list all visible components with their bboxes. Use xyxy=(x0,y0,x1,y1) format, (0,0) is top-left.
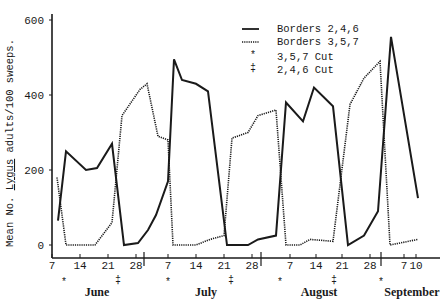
series-borders-246-line xyxy=(58,37,418,245)
legend-label-borders-357: Borders 3,5,7 xyxy=(277,36,359,48)
y-tick-label: 400 xyxy=(24,90,44,102)
y-label-genus: Lygus xyxy=(4,159,16,191)
cut-246-marker-icon: ‡ xyxy=(115,275,121,286)
x-tick-label: 21 xyxy=(101,260,115,272)
x-tick-label: 14 xyxy=(73,260,87,272)
x-ticks: 714212871421287142128710 xyxy=(49,254,423,272)
cut-357-marker-icon: * xyxy=(165,277,171,288)
x-tick-label: 14 xyxy=(189,260,203,272)
x-tick-label: 7 xyxy=(49,260,56,272)
y-label-post: adults/100 sweeps. xyxy=(4,39,16,159)
y-ticks: 0200400600 xyxy=(24,15,52,252)
data-series xyxy=(57,37,418,245)
x-tick-label: 21 xyxy=(217,260,231,272)
x-tick-label: 28 xyxy=(129,260,142,272)
lygus-line-chart: Mean No. Lygus adults/100 sweeps. 020040… xyxy=(0,0,445,301)
series-borders-357-line xyxy=(57,61,418,245)
y-tick-label: 600 xyxy=(24,15,44,27)
month-label: September xyxy=(384,285,440,299)
cut-246-marker-icon: ‡ xyxy=(228,275,234,286)
y-axis-label: Mean No. Lygus adults/100 sweeps. xyxy=(4,39,16,247)
month-labels: JuneJulyAugustSeptember xyxy=(85,285,441,299)
legend-label-cut-357: 3,5,7 Cut xyxy=(277,51,334,63)
svg-text:Mean No. Lygus adults/100 swee: Mean No. Lygus adults/100 sweeps. xyxy=(4,39,16,247)
x-tick-label: 7 xyxy=(287,260,294,272)
legend-label-borders-246: Borders 2,4,6 xyxy=(277,23,359,35)
cut-357-marker-icon: * xyxy=(61,277,67,288)
legend-double-dagger-icon: ‡ xyxy=(250,63,256,74)
x-tick-label: 21 xyxy=(335,260,349,272)
x-tick-label: 7 xyxy=(401,260,408,272)
cut-357-marker-icon: * xyxy=(378,277,384,288)
y-tick-label: 0 xyxy=(37,240,44,252)
x-tick-label: 7 xyxy=(165,260,172,272)
month-label: July xyxy=(195,285,217,299)
x-tick-label: 10 xyxy=(409,260,422,272)
x-tick-label: 28 xyxy=(245,260,258,272)
cut-357-marker-icon: * xyxy=(277,277,283,288)
x-tick-label: 14 xyxy=(309,260,323,272)
y-tick-label: 200 xyxy=(24,165,44,177)
x-tick-label: 28 xyxy=(363,260,376,272)
y-label-pre: Mean No. xyxy=(4,190,16,247)
month-label: August xyxy=(301,285,338,299)
legend: * ‡ Borders 2,4,6 Borders 3,5,7 3,5,7 Cu… xyxy=(242,23,359,76)
month-label: June xyxy=(85,285,110,299)
legend-label-cut-246: 2,4,6 Cut xyxy=(277,64,334,76)
legend-asterisk-icon: * xyxy=(250,50,256,61)
